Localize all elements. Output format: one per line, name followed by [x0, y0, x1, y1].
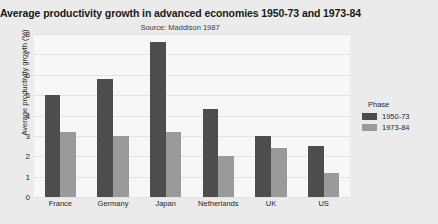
y-tick-label: 7 — [4, 50, 30, 59]
bar — [45, 95, 61, 197]
y-tick-label: 6 — [4, 70, 30, 79]
y-axis-ticks: 012345678 — [0, 34, 30, 197]
x-tick-label: Netherlands — [198, 199, 238, 208]
bar — [203, 109, 219, 197]
bar — [271, 148, 287, 197]
x-axis-ticks: FranceGermanyJapanNetherlandsUKUS — [34, 198, 350, 212]
x-tick-label: US — [318, 199, 328, 208]
bar — [150, 42, 166, 197]
bar — [166, 132, 182, 197]
chart-subtitle: Source: Maddison 1987 — [0, 23, 360, 32]
legend-title: Phase — [368, 100, 434, 109]
chart-title: Average productivity growth in advanced … — [0, 7, 360, 19]
bar — [113, 136, 129, 197]
x-tick-label: Japan — [155, 199, 175, 208]
y-tick-label: 8 — [4, 30, 30, 39]
bar — [308, 146, 324, 197]
y-tick-label: 2 — [4, 152, 30, 161]
y-tick-label: 3 — [4, 131, 30, 140]
y-tick-label: 1 — [4, 172, 30, 181]
x-tick-label: France — [49, 199, 72, 208]
x-tick-label: Germany — [98, 199, 129, 208]
legend-label: 1950-73 — [382, 112, 410, 121]
bar — [97, 79, 113, 197]
legend-item: 1950-73 — [362, 112, 434, 121]
y-tick-label: 5 — [4, 91, 30, 100]
x-tick-label: UK — [266, 199, 276, 208]
legend-swatch-icon — [362, 113, 377, 120]
y-tick-label: 0 — [4, 193, 30, 202]
plot-area — [34, 34, 350, 197]
bar — [60, 132, 76, 197]
bar — [255, 136, 271, 197]
legend: Phase 1950-731973-84 — [362, 100, 434, 134]
bar — [218, 156, 234, 197]
legend-label: 1973-84 — [382, 123, 410, 132]
legend-entries: 1950-731973-84 — [362, 112, 434, 132]
legend-swatch-icon — [362, 124, 377, 131]
bar — [324, 173, 340, 197]
bars-layer — [34, 34, 350, 197]
chart-container: Average productivity growth in advanced … — [0, 0, 438, 224]
y-tick-label: 4 — [4, 111, 30, 120]
legend-item: 1973-84 — [362, 123, 434, 132]
